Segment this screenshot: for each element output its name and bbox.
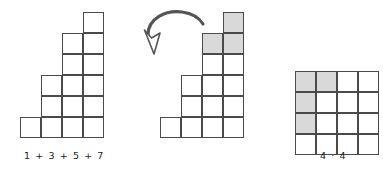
arrow-head	[145, 30, 161, 54]
grid-cell	[62, 117, 83, 138]
rotation-arrow	[142, 8, 208, 62]
grid-cell	[62, 75, 83, 96]
grid-cell	[337, 71, 358, 92]
grid-cell	[83, 75, 104, 96]
grid-cell	[202, 96, 223, 117]
grid-cell-shaded	[295, 92, 316, 113]
grid-cell	[83, 117, 104, 138]
grid-cell	[337, 113, 358, 134]
grid-cell	[358, 92, 379, 113]
grid-cell	[160, 117, 181, 138]
figure-odd-number-staircase	[20, 12, 104, 138]
grid-cell	[83, 12, 104, 33]
grid-cell	[358, 113, 379, 134]
grid-cell	[223, 54, 244, 75]
grid-cell	[316, 92, 337, 113]
grid-cell	[181, 117, 202, 138]
grid-cell	[202, 117, 223, 138]
grid-cell	[41, 117, 62, 138]
grid-cell	[62, 96, 83, 117]
grid-cell	[83, 96, 104, 117]
grid-cell-shaded	[295, 113, 316, 134]
grid-cell	[295, 134, 316, 155]
grid-cell	[83, 54, 104, 75]
grid-cell	[41, 75, 62, 96]
grid-cell-shaded	[223, 33, 244, 54]
grid-cell	[41, 96, 62, 117]
arrow-curve-stroke	[148, 12, 203, 35]
grid-cell	[20, 117, 41, 138]
grid-cell	[223, 117, 244, 138]
grid-cell	[62, 33, 83, 54]
grid-cell	[223, 96, 244, 117]
grid-cell	[181, 75, 202, 96]
grid-cell	[181, 96, 202, 117]
figure-four-by-four-square	[295, 71, 379, 155]
caption-odd-sum: 1 + 3 + 5 + 7	[24, 150, 104, 161]
grid-cell-shaded	[223, 12, 244, 33]
grid-cell	[223, 75, 244, 96]
grid-cell-shaded	[316, 71, 337, 92]
grid-cell	[358, 134, 379, 155]
grid-cell	[202, 75, 223, 96]
grid-cell	[83, 33, 104, 54]
grid-cell	[337, 92, 358, 113]
grid-cell	[358, 71, 379, 92]
grid-cell-shaded	[295, 71, 316, 92]
caption-square-product: 4 · 4	[320, 150, 347, 161]
grid-cell	[62, 54, 83, 75]
grid-cell	[316, 113, 337, 134]
